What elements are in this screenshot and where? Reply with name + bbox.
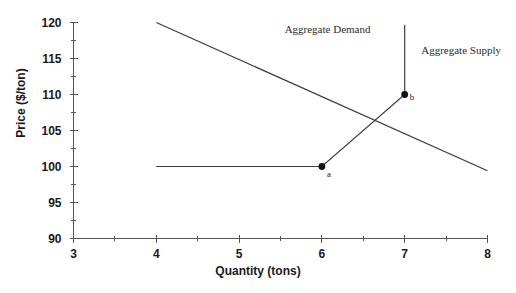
x-axis-title: Quantity (tons) [0, 264, 516, 278]
data-point-marker [319, 163, 326, 170]
series-label-supply: Aggregate Supply [421, 44, 501, 56]
x-axis-tick-label: 5 [224, 248, 254, 260]
y-axis-title: Price ($/ton) [14, 48, 28, 158]
x-axis-tick-label: 3 [59, 248, 89, 260]
chart-figure: 9095100105110115120 345678 Aggregate Dem… [0, 0, 516, 293]
x-axis-tick-label: 7 [390, 248, 420, 260]
point-label-b: b [410, 92, 415, 102]
series-label-demand: Aggregate Demand [285, 23, 371, 35]
point-label-a: a [327, 169, 331, 179]
y-axis-tick-label: 120 [22, 17, 62, 29]
y-axis-tick-label: 100 [22, 161, 62, 173]
y-axis-tick-label: 90 [22, 233, 62, 245]
x-axis-tick-label: 4 [141, 248, 171, 260]
x-axis-tick-label: 6 [307, 248, 337, 260]
y-axis-tick-label: 95 [22, 197, 62, 209]
x-axis-tick-label: 8 [473, 248, 503, 260]
series-line [156, 25, 404, 167]
data-point-marker [401, 91, 408, 98]
